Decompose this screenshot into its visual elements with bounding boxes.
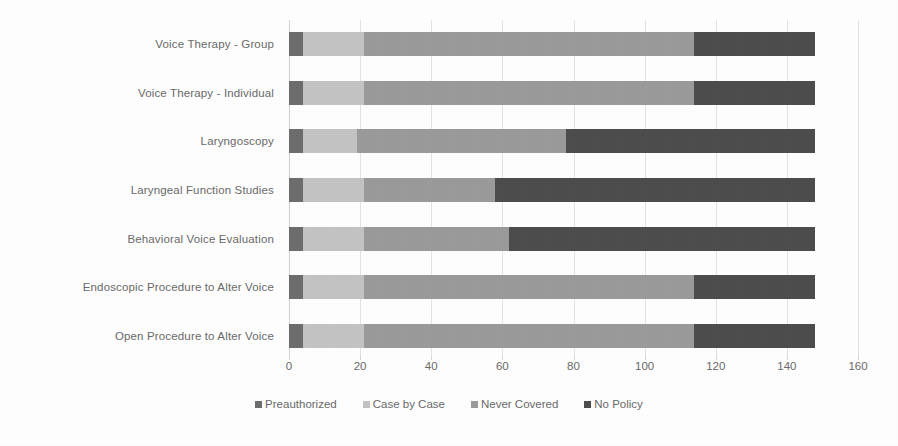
chart-legend: PreauthorizedCase by CaseNever CoveredNo… bbox=[0, 398, 898, 410]
gridline-160 bbox=[858, 20, 859, 360]
x-tick-label: 80 bbox=[567, 360, 580, 372]
bar-segment-preauthorized bbox=[289, 178, 303, 202]
bar-segment-case-by-case bbox=[303, 275, 363, 299]
bar-segment-preauthorized bbox=[289, 227, 303, 251]
bar-segment-no-policy bbox=[694, 81, 815, 105]
bar-segment-never-covered bbox=[364, 275, 695, 299]
legend-item[interactable]: Case by Case bbox=[363, 398, 445, 410]
stacked-bar-chart: Voice Therapy - GroupVoice Therapy - Ind… bbox=[0, 0, 898, 446]
bar-segment-case-by-case bbox=[303, 129, 356, 153]
x-tick-label: 160 bbox=[848, 360, 867, 372]
category-label: Voice Therapy - Individual bbox=[138, 87, 274, 99]
category-label: Laryngeal Function Studies bbox=[131, 184, 274, 196]
bar-segment-no-policy bbox=[566, 129, 815, 153]
category-label: Behavioral Voice Evaluation bbox=[127, 233, 274, 245]
category-label: Laryngoscopy bbox=[201, 135, 274, 147]
category-axis-labels: Voice Therapy - GroupVoice Therapy - Ind… bbox=[0, 20, 283, 360]
x-tick-label: 140 bbox=[777, 360, 796, 372]
bar-segment-no-policy bbox=[694, 32, 815, 56]
bar-segment-case-by-case bbox=[303, 324, 363, 348]
legend-label: No Policy bbox=[594, 398, 643, 410]
legend-swatch-icon bbox=[471, 401, 478, 408]
legend-swatch-icon bbox=[255, 401, 262, 408]
bar-segment-never-covered bbox=[357, 129, 567, 153]
bar-segment-case-by-case bbox=[303, 81, 363, 105]
bar-segment-never-covered bbox=[364, 32, 695, 56]
category-label: Voice Therapy - Group bbox=[155, 38, 274, 50]
x-tick-label: 100 bbox=[635, 360, 654, 372]
bar-segment-no-policy bbox=[694, 324, 815, 348]
bar-row bbox=[289, 129, 858, 153]
bar-segment-no-policy bbox=[495, 178, 815, 202]
bar-row bbox=[289, 275, 858, 299]
bar-segment-no-policy bbox=[694, 275, 815, 299]
legend-item[interactable]: No Policy bbox=[584, 398, 643, 410]
x-tick-label: 40 bbox=[425, 360, 438, 372]
legend-item[interactable]: Never Covered bbox=[471, 398, 558, 410]
plot-area bbox=[289, 20, 858, 360]
x-axis: 020406080100120140160 bbox=[289, 360, 858, 380]
bar-row bbox=[289, 324, 858, 348]
legend-item[interactable]: Preauthorized bbox=[255, 398, 337, 410]
bar-segment-preauthorized bbox=[289, 324, 303, 348]
bar-row bbox=[289, 32, 858, 56]
x-tick-label: 0 bbox=[286, 360, 292, 372]
bar-segment-case-by-case bbox=[303, 178, 363, 202]
legend-swatch-icon bbox=[363, 401, 370, 408]
x-tick-label: 20 bbox=[354, 360, 367, 372]
bar-segment-case-by-case bbox=[303, 227, 363, 251]
bar-row bbox=[289, 178, 858, 202]
bar-segment-preauthorized bbox=[289, 32, 303, 56]
x-tick-label: 60 bbox=[496, 360, 509, 372]
category-label: Open Procedure to Alter Voice bbox=[115, 330, 274, 342]
bar-segment-never-covered bbox=[364, 324, 695, 348]
legend-label: Preauthorized bbox=[265, 398, 337, 410]
x-tick-label: 120 bbox=[706, 360, 725, 372]
bar-segment-never-covered bbox=[364, 227, 510, 251]
bar-segment-no-policy bbox=[509, 227, 815, 251]
legend-swatch-icon bbox=[584, 401, 591, 408]
bar-segment-case-by-case bbox=[303, 32, 363, 56]
category-label: Endoscopic Procedure to Alter Voice bbox=[83, 281, 274, 293]
bar-segment-never-covered bbox=[364, 81, 695, 105]
legend-label: Case by Case bbox=[373, 398, 445, 410]
legend-label: Never Covered bbox=[481, 398, 558, 410]
bar-segment-preauthorized bbox=[289, 275, 303, 299]
bar-row bbox=[289, 81, 858, 105]
bar-segment-never-covered bbox=[364, 178, 496, 202]
bar-segment-preauthorized bbox=[289, 129, 303, 153]
bar-segment-preauthorized bbox=[289, 81, 303, 105]
bar-row bbox=[289, 227, 858, 251]
